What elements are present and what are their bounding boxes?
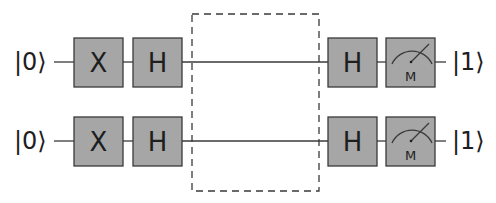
qubit-row-1: |0⟩ X H H M |1⟩ [14,38,485,87]
h-gate-label: H [148,48,168,78]
measurement-label: M [405,69,416,84]
x-gate-label: X [90,48,108,78]
input-ket: |0⟩ [14,127,47,155]
x-gate-label: X [90,127,108,157]
quantum-circuit: |0⟩ X H H M |1⟩ |0⟩ X H H [0,0,496,203]
h-gate-label: H [343,127,363,157]
qubit-row-2: |0⟩ X H H M |1⟩ [14,117,485,166]
measurement-label: M [405,148,416,163]
output-ket: |1⟩ [452,127,485,155]
h-gate-label: H [343,48,363,78]
h-gate-label: H [148,127,168,157]
oracle-box [192,14,319,191]
input-ket: |0⟩ [14,48,47,76]
output-ket: |1⟩ [452,48,485,76]
measurement-gate: M [386,117,435,166]
measurement-gate: M [386,38,435,87]
